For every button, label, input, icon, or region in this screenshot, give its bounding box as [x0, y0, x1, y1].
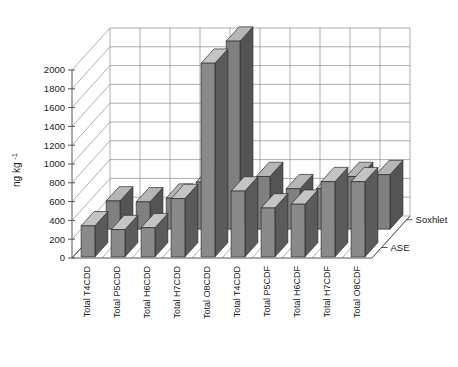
y-tick-label: 2000	[44, 64, 65, 75]
y-axis-title: ng kg -1	[10, 153, 23, 187]
x-axis-label-text: Total H7CDD	[172, 266, 182, 319]
y-tick-label: 1200	[44, 140, 65, 151]
x-axis-label: Total P5CDD	[112, 266, 122, 319]
x-axis-label: Total H6CDD	[142, 266, 152, 319]
x-axis-label: Total P5CDF	[262, 266, 272, 318]
x-axis-label-text: Total H6CDF	[292, 266, 302, 318]
y-tick-label: 200	[49, 234, 65, 245]
plot-walls: 0200400600800100012001400160018002000ng …	[10, 27, 448, 319]
y-tick-label: 1600	[44, 102, 65, 113]
x-axis-label: Total H7CDD	[172, 266, 182, 319]
chart-container: 0200400600800100012001400160018002000ng …	[0, 0, 458, 367]
bar-front-face	[81, 226, 95, 257]
bar	[261, 194, 288, 257]
bar	[171, 184, 198, 257]
bar	[376, 160, 403, 229]
y-tick-label: 1000	[44, 158, 65, 169]
bar	[321, 167, 348, 256]
bar	[231, 177, 258, 257]
x-axis-label-text: Total H7CDF	[322, 266, 332, 318]
x-axis-label: Total T4CDD	[232, 266, 242, 318]
bar-front-face	[351, 182, 365, 257]
bar	[291, 190, 318, 257]
y-tick-label: 0	[60, 252, 65, 263]
x-axis-label-text: Total T4CDD	[82, 266, 92, 318]
y-tick-label: 600	[49, 196, 65, 207]
bar-side-face	[215, 49, 228, 257]
y-tick-label: 1800	[44, 83, 65, 94]
bar-front-face	[261, 208, 275, 257]
series-label-ase: ASE	[391, 242, 410, 253]
x-axis-label: Total H7CDF	[322, 266, 332, 318]
x-axis-label: Total H6CDF	[292, 266, 302, 318]
x-axis-label-text: Total P5CDF	[262, 266, 272, 318]
bar-front-face	[171, 199, 185, 257]
y-axis-title-text: ng kg -1	[10, 153, 23, 187]
bar-front-face	[291, 204, 305, 257]
y-tick-label: 800	[49, 177, 65, 188]
y-tick-label: 1400	[44, 121, 65, 132]
y-tick-label: 400	[49, 215, 65, 226]
x-axis-label-text: Total O8CDD	[202, 265, 212, 319]
bar-front-face	[141, 228, 155, 257]
bar-chart-3d: 0200400600800100012001400160018002000ng …	[0, 0, 458, 367]
bar-front-face	[201, 63, 215, 257]
series-label-soxhlet: Soxhlet	[416, 214, 448, 225]
x-axis-labels: Total T4CDDTotal P5CDDTotal H6CDDTotal H…	[82, 265, 362, 319]
bar-front-face	[321, 182, 335, 257]
x-axis-label: Total O8CDD	[202, 265, 212, 319]
x-axis-label-text: Total P5CDD	[112, 266, 122, 319]
x-axis-label-text: Total O8CDF	[352, 265, 362, 318]
bar-side-face	[335, 167, 348, 256]
x-axis-label: Total T4CDD	[82, 266, 92, 318]
bar	[351, 167, 378, 256]
bar-front-face	[111, 230, 125, 257]
bar	[201, 49, 228, 257]
x-axis-label-text: Total H6CDD	[142, 266, 152, 319]
bar-front-face	[231, 191, 245, 257]
x-axis-label-text: Total T4CDD	[232, 266, 242, 318]
bar-front-face	[376, 175, 390, 230]
bar-side-face	[365, 167, 378, 256]
x-axis-label: Total O8CDF	[352, 265, 362, 318]
